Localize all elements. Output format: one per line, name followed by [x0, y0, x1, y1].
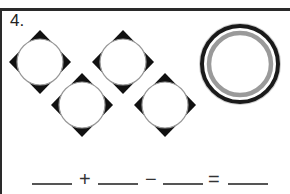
answer-blank-1[interactable]: [32, 183, 72, 185]
picture-area: [0, 0, 290, 194]
diamond-shape: [9, 30, 71, 94]
diamond-shape: [92, 30, 154, 94]
answer-blank-2[interactable]: [98, 183, 138, 185]
equation-row: + − =: [0, 168, 290, 194]
answer-blank-3[interactable]: [163, 183, 203, 185]
diamond-shape: [134, 73, 196, 137]
minus-sign: −: [145, 169, 157, 189]
answer-blank-4[interactable]: [228, 183, 268, 185]
diamond-shape: [51, 73, 113, 137]
equals-sign: =: [208, 169, 220, 189]
ring-shape: [200, 24, 280, 104]
plus-sign: +: [79, 169, 91, 189]
